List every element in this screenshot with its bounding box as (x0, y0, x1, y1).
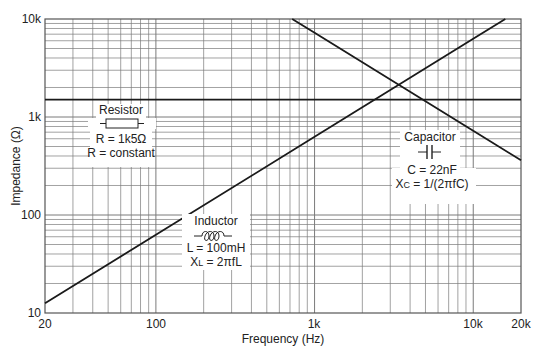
x-tick-20k: 20k (511, 317, 531, 331)
x-tick-20: 20 (38, 317, 52, 331)
y-tick-1k: 1k (28, 110, 42, 124)
inductor-title: Inductor (194, 214, 237, 228)
y-tick-10k: 10k (22, 12, 42, 26)
capacitor-annotation: Capacitor C = 22nF XC = 1/(2πfC) (392, 130, 476, 204)
resistor-symbol-icon (88, 118, 156, 129)
resistor-formula: R = constant (87, 146, 155, 160)
inductor-formula: XL = 2πfL (190, 255, 242, 269)
x-tick-1k: 1k (308, 317, 322, 331)
impedance-chart: 10k 1k 100 10 20 100 1k 10k 20k Frequenc… (0, 0, 542, 348)
y-tick-100: 100 (21, 208, 41, 222)
inductor-annotation: Inductor L = 100mH XL = 2πfL (182, 214, 250, 270)
capacitor-title: Capacitor (404, 130, 455, 144)
capacitor-formula: XC = 1/(2πfC) (395, 177, 468, 191)
x-tick-100: 100 (146, 317, 166, 331)
x-axis-label: Frequency (Hz) (242, 332, 325, 346)
capacitor-value: C = 22nF (407, 163, 457, 177)
resistor-value: R = 1k5Ω (96, 132, 147, 146)
resistor-annotation: Resistor R = 1k5Ω R = constant (87, 103, 156, 167)
resistor-title: Resistor (99, 103, 143, 117)
y-axis-label: Impedance (Ω) (9, 126, 23, 206)
inductor-value: L = 100mH (187, 241, 246, 255)
x-tick-10k: 10k (463, 317, 483, 331)
